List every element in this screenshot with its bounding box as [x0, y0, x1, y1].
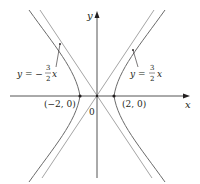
svg-text:y = −: y = − — [16, 69, 43, 79]
y-axis-arrow-icon — [95, 11, 100, 18]
vertex-right-point — [112, 94, 115, 97]
svg-text:x: x — [157, 69, 162, 79]
svg-text:3: 3 — [150, 64, 154, 72]
asymptote-positive-slope — [42, 10, 154, 178]
svg-text:x: x — [52, 69, 57, 79]
left-leader-dot — [59, 43, 61, 45]
vertex-left-point — [78, 94, 81, 97]
left-asymptote-label: y = − 3 2 x — [16, 64, 57, 83]
right-asymptote-label: y = 3 2 x — [129, 64, 162, 83]
asymptote-negative-slope — [40, 10, 152, 178]
svg-text:2: 2 — [150, 75, 154, 83]
hyperbola-diagram: y x 0 (−2, 0) (2, 0) y = − 3 2 x y = 3 2… — [0, 0, 200, 184]
x-axis-arrow-icon — [183, 94, 190, 99]
right-asymptote-leader — [133, 50, 138, 67]
right-leader-dot — [132, 49, 134, 51]
svg-text:y =: y = — [129, 69, 146, 79]
origin-label: 0 — [89, 107, 95, 117]
origin-point — [96, 95, 98, 97]
svg-text:3: 3 — [46, 64, 50, 72]
svg-text:2: 2 — [46, 75, 50, 83]
vertex-left-label: (−2, 0) — [44, 99, 76, 109]
vertex-right-label: (2, 0) — [122, 99, 146, 109]
x-axis-label: x — [185, 99, 191, 110]
y-axis-label: y — [86, 10, 93, 21]
